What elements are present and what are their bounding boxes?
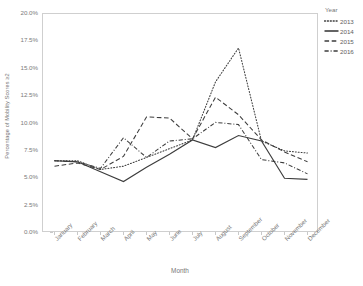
legend-label-2013: 2013 <box>340 18 354 25</box>
legend-line-sample-2015 <box>324 37 339 45</box>
y-axis-title-text: Percentage of Mobility Scores ≥2 <box>4 73 10 158</box>
series-line-2014 <box>55 136 308 182</box>
legend-label-2014: 2014 <box>340 28 354 35</box>
x-axis-title: Month <box>42 267 318 274</box>
x-axis-ticks: JanuaryFebruaryMarchAprilMayJuneJulyAugu… <box>0 232 363 286</box>
series-line-2016 <box>55 122 308 173</box>
legend-line-sample-2013 <box>324 17 339 25</box>
y-tick-label: 10.0% <box>12 119 38 126</box>
legend-line-sample-2016 <box>324 47 339 55</box>
series-line-2013 <box>55 48 308 170</box>
plot-area <box>42 13 318 232</box>
legend-item-2013[interactable]: 2013 <box>324 16 363 26</box>
legend-label-2016: 2016 <box>340 48 354 55</box>
y-tick-label: 2.5% <box>12 201 38 208</box>
legend-item-2016[interactable]: 2016 <box>324 46 363 56</box>
legend-title: Year <box>324 6 363 13</box>
y-tick-label: 20.0% <box>12 9 38 16</box>
y-tick-label: 5.0% <box>12 173 38 180</box>
legend-item-2015[interactable]: 2015 <box>324 36 363 46</box>
y-tick-label: 7.5% <box>12 146 38 153</box>
y-tick-label: 15.0% <box>12 64 38 71</box>
series-lines <box>43 14 319 233</box>
series-line-2015 <box>55 97 308 169</box>
chart-figure: Percentage of Mobility Scores ≥2 20.0%17… <box>0 0 363 286</box>
y-tick-label: 17.5% <box>12 36 38 43</box>
legend-items: 2013201420152016 <box>324 16 363 56</box>
legend: Year 2013201420152016 <box>324 6 363 56</box>
y-tick-label: 12.5% <box>12 91 38 98</box>
legend-line-sample-2014 <box>324 27 339 35</box>
legend-item-2014[interactable]: 2014 <box>324 26 363 36</box>
legend-label-2015: 2015 <box>340 38 354 45</box>
